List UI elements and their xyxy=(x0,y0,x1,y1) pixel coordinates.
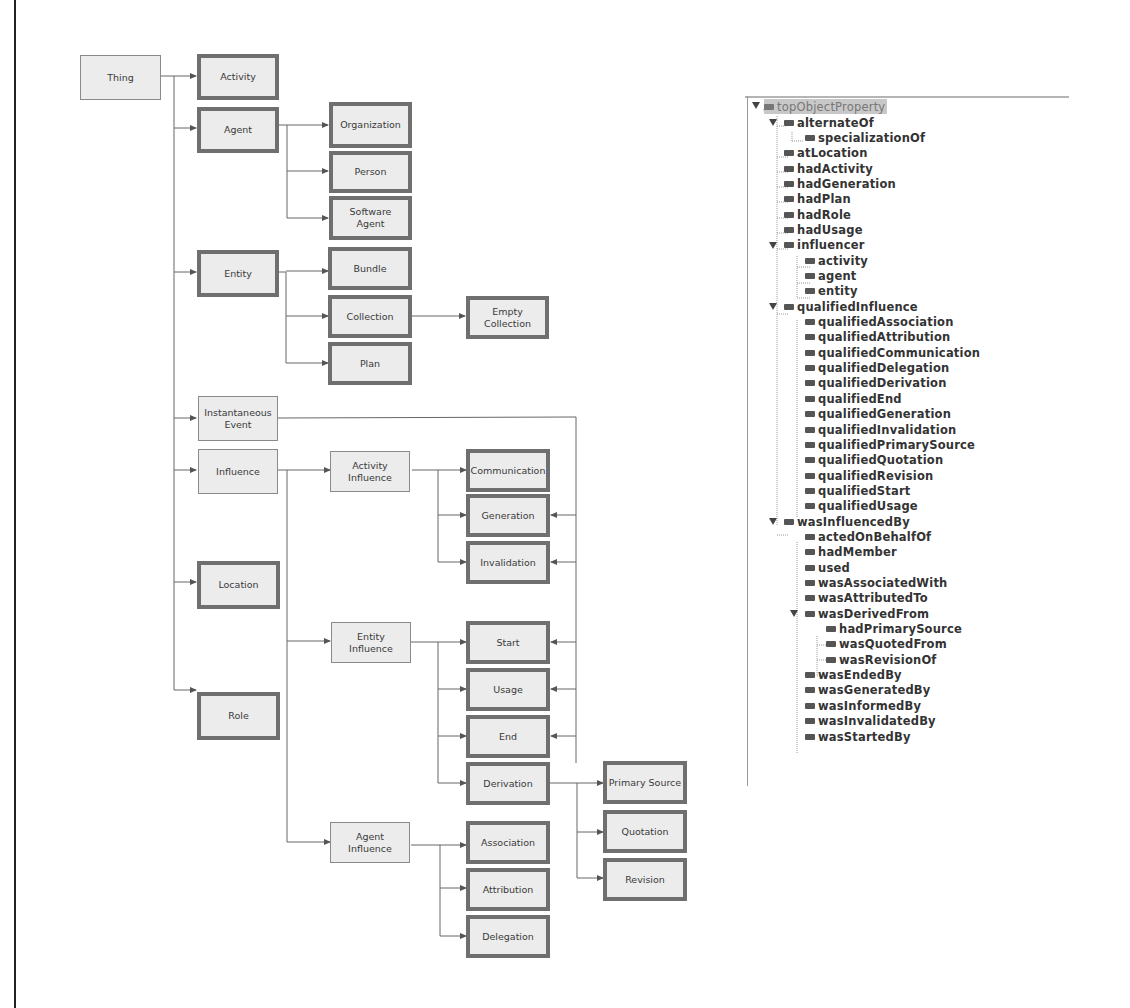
tree-item[interactable]: wasInvalidatedBy xyxy=(805,714,936,729)
node-agent[interactable]: Agent xyxy=(197,107,279,153)
tree-item[interactable]: qualifiedAssociation xyxy=(805,315,954,330)
node-label: Association xyxy=(481,837,535,849)
node-role[interactable]: Role xyxy=(197,692,280,740)
tree-item-label: wasAttributedTo xyxy=(818,591,928,605)
tree-item-label: qualifiedEnd xyxy=(818,392,902,406)
tree-item-label: qualifiedDelegation xyxy=(818,361,949,375)
node-generation[interactable]: Generation xyxy=(466,494,550,537)
tree-item[interactable]: wasAssociatedWith xyxy=(805,576,947,591)
tree-item[interactable]: wasGeneratedBy xyxy=(805,683,930,698)
tree-item[interactable]: qualifiedStart xyxy=(805,483,911,498)
tree-item[interactable]: wasStartedBy xyxy=(805,729,911,744)
node-organization[interactable]: Organization xyxy=(329,102,412,148)
tree-item[interactable]: hadMember xyxy=(805,545,897,560)
tree-item[interactable]: qualifiedEnd xyxy=(805,391,902,406)
tree-item[interactable]: wasEndedBy xyxy=(805,668,902,683)
node-collection[interactable]: Collection xyxy=(328,295,412,338)
tree-item-root[interactable]: topObjectProperty xyxy=(764,99,887,114)
object-property-icon xyxy=(805,411,815,417)
tree-item[interactable]: wasAttributedTo xyxy=(805,591,928,606)
node-influence[interactable]: Influence xyxy=(198,449,278,494)
expand-toggle-icon[interactable] xyxy=(769,242,777,249)
tree-item[interactable]: wasInfluencedBy xyxy=(784,514,910,529)
tree-item-label: wasStartedBy xyxy=(818,730,911,744)
node-label: Influence xyxy=(216,466,260,478)
node-label: Entity xyxy=(224,268,252,280)
node-revision[interactable]: Revision xyxy=(603,858,687,901)
tree-item[interactable]: atLocation xyxy=(784,146,868,161)
node-plan[interactable]: Plan xyxy=(328,342,412,385)
tree-item[interactable]: hadUsage xyxy=(784,222,863,237)
tree-item[interactable]: qualifiedInvalidation xyxy=(805,422,956,437)
tree-item[interactable]: wasQuotedFrom xyxy=(826,637,947,652)
tree-item[interactable]: wasRevisionOf xyxy=(826,652,937,667)
tree-item[interactable]: specializationOf xyxy=(805,130,925,145)
node-derivation[interactable]: Derivation xyxy=(466,762,550,805)
object-property-icon xyxy=(805,611,815,617)
node-software-agent[interactable]: Software Agent xyxy=(329,196,412,240)
node-empty-collection[interactable]: Empty Collection xyxy=(466,296,549,339)
tree-item-label: atLocation xyxy=(797,146,868,160)
object-property-icon xyxy=(805,427,815,433)
node-instantaneous-event[interactable]: Instantaneous Event xyxy=(198,396,278,441)
node-quotation[interactable]: Quotation xyxy=(603,810,687,853)
node-association[interactable]: Association xyxy=(466,821,550,864)
tree-item[interactable]: qualifiedInfluence xyxy=(784,299,918,314)
object-property-icon xyxy=(805,672,815,678)
tree-item-label: wasQuotedFrom xyxy=(839,637,947,651)
tree-item[interactable]: entity xyxy=(805,284,858,299)
node-bundle[interactable]: Bundle xyxy=(328,247,412,290)
tree-item[interactable]: actedOnBehalfOf xyxy=(805,529,931,544)
node-label: Invalidation xyxy=(480,557,536,569)
node-entity-influence[interactable]: Entity Influence xyxy=(331,622,411,663)
node-start[interactable]: Start xyxy=(466,621,550,664)
tree-item[interactable]: hadActivity xyxy=(784,161,873,176)
node-activity-influence[interactable]: Activity Influence xyxy=(330,451,410,492)
tree-item[interactable]: wasInformedBy xyxy=(805,698,921,713)
node-usage[interactable]: Usage xyxy=(466,668,550,711)
node-primary-source[interactable]: Primary Source xyxy=(603,761,687,804)
node-attribution[interactable]: Attribution xyxy=(466,868,550,911)
node-entity[interactable]: Entity xyxy=(197,250,279,297)
object-property-icon xyxy=(764,104,774,110)
tree-item[interactable]: qualifiedUsage xyxy=(805,499,918,514)
tree-item[interactable]: wasDerivedFrom xyxy=(805,606,929,621)
tree-item-label: qualifiedAttribution xyxy=(818,330,951,344)
expand-toggle-icon[interactable] xyxy=(752,102,760,109)
node-thing[interactable]: Thing xyxy=(80,55,161,100)
node-invalidation[interactable]: Invalidation xyxy=(466,541,550,584)
tree-item[interactable]: activity xyxy=(805,253,868,268)
node-end[interactable]: End xyxy=(466,715,550,758)
object-property-icon xyxy=(805,473,815,479)
expand-toggle-icon[interactable] xyxy=(769,518,777,525)
tree-item[interactable]: alternateOf xyxy=(784,115,874,130)
tree-item[interactable]: qualifiedGeneration xyxy=(805,407,951,422)
tree-item[interactable]: qualifiedDelegation xyxy=(805,361,949,376)
expand-toggle-icon[interactable] xyxy=(769,303,777,310)
object-property-icon xyxy=(784,519,794,525)
tree-item[interactable]: qualifiedPrimarySource xyxy=(805,437,975,452)
tree-item[interactable]: agent xyxy=(805,269,856,284)
object-property-icon xyxy=(805,503,815,509)
expand-toggle-icon[interactable] xyxy=(769,119,777,126)
object-property-icon xyxy=(784,242,794,248)
tree-item[interactable]: hadPlan xyxy=(784,192,851,207)
tree-item[interactable]: hadGeneration xyxy=(784,176,896,191)
tree-item[interactable]: qualifiedDerivation xyxy=(805,376,947,391)
tree-item[interactable]: hadRole xyxy=(784,207,851,222)
expand-toggle-icon[interactable] xyxy=(790,610,798,617)
tree-item[interactable]: qualifiedRevision xyxy=(805,468,933,483)
node-communication[interactable]: Communication xyxy=(466,449,550,492)
tree-item[interactable]: influencer xyxy=(784,238,865,253)
tree-item[interactable]: qualifiedAttribution xyxy=(805,330,951,345)
node-person[interactable]: Person xyxy=(329,151,412,193)
tree-item[interactable]: qualifiedCommunication xyxy=(805,345,980,360)
node-delegation[interactable]: Delegation xyxy=(466,915,550,958)
tree-item[interactable]: used xyxy=(805,560,850,575)
node-location[interactable]: Location xyxy=(197,561,280,609)
property-tree[interactable]: topObjectProperty alternateOfspecializat… xyxy=(747,96,1069,786)
tree-item[interactable]: hadPrimarySource xyxy=(826,622,962,637)
node-activity[interactable]: Activity xyxy=(197,54,279,100)
tree-item[interactable]: qualifiedQuotation xyxy=(805,453,943,468)
node-agent-influence[interactable]: Agent Influence xyxy=(330,822,410,863)
